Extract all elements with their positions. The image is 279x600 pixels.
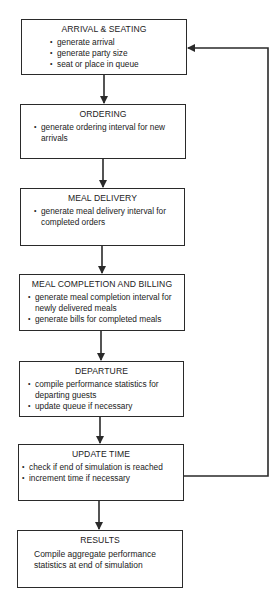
bullet-item: compile performance statistics for depar…	[28, 379, 177, 401]
node-results: RESULTS Compile aggregate performance st…	[17, 530, 183, 588]
feedback-loop-arrow	[183, 48, 268, 476]
node-title: MEAL COMPLETION AND BILLING	[20, 279, 184, 290]
node-title: ORDERING	[21, 109, 185, 120]
node-arrival-seating: ARRIVAL & SEATING generate arrival gener…	[21, 19, 187, 75]
bullet-item: generate arrival	[50, 37, 186, 48]
bullet-item: update queue if necessary	[28, 401, 177, 412]
node-title: RESULTS	[18, 535, 182, 546]
bullet-item: increment time if necessary	[22, 473, 183, 484]
node-meal-completion-billing: MEAL COMPLETION AND BILLING generate mea…	[19, 274, 185, 331]
bullet-item: check if end of simulation is reached	[22, 462, 183, 473]
node-meal-delivery: MEAL DELIVERY generate meal delivery int…	[20, 188, 185, 246]
node-description: Compile aggregate performance statistics…	[34, 549, 172, 571]
bullet-item: generate bills for completed meals	[28, 314, 180, 325]
node-title: MEAL DELIVERY	[21, 193, 184, 204]
bullet-item: generate meal delivery interval for comp…	[34, 206, 176, 228]
bullet-item: seat or place in queue	[50, 59, 186, 70]
node-departure: DEPARTURE compile performance statistics…	[19, 361, 184, 417]
node-ordering: ORDERING generate ordering interval for …	[20, 104, 186, 159]
bullet-item: generate meal completion interval for ne…	[28, 292, 180, 314]
node-title: ARRIVAL & SEATING	[22, 24, 186, 35]
node-update-time: UPDATE TIME check if end of simulation i…	[18, 444, 184, 501]
bullet-item: generate party size	[50, 48, 186, 59]
node-title: UPDATE TIME	[19, 449, 183, 460]
bullet-item: generate ordering interval for new arriv…	[34, 122, 177, 144]
node-title: DEPARTURE	[20, 366, 183, 377]
